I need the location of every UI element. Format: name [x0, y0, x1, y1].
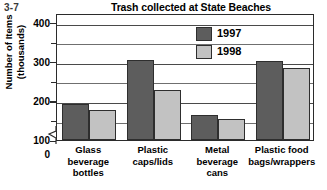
- y-tick-label-400: 400: [16, 18, 50, 29]
- legend-label-1998: 1998: [217, 46, 241, 57]
- bar-1998-3: [218, 119, 245, 141]
- y-tick-label-200: 200: [16, 96, 50, 107]
- category-label-4-line-1: Plastic food: [244, 144, 321, 156]
- category-label-1-line-3: bottles: [50, 167, 127, 179]
- y-axis-title-line-1: Number of Items: [3, 15, 14, 90]
- bar-1997-2: [127, 60, 154, 140]
- gridline: [57, 25, 313, 26]
- legend-item-1997: 1997: [196, 25, 241, 42]
- legend-swatch-1997: [196, 27, 212, 41]
- bar-1997-4: [256, 61, 283, 140]
- chart-legend: 19971998: [196, 25, 241, 61]
- bar-1997-3: [191, 115, 218, 140]
- bar-1997-1: [62, 104, 89, 140]
- x-axis-category-labels: GlassbeveragebottlesPlasticcaps/lidsMeta…: [56, 144, 314, 190]
- y-tick-label-300: 300: [16, 57, 50, 68]
- y-tick-label-0: 0: [16, 149, 50, 160]
- category-label-3-line-3: cans: [179, 167, 256, 179]
- gridline: [57, 44, 313, 45]
- chart-title: Trash collected at State Beaches: [55, 1, 327, 13]
- legend-swatch-1998: [196, 45, 212, 59]
- legend-item-1998: 1998: [196, 43, 241, 60]
- legend-label-1997: 1997: [217, 28, 241, 39]
- bar-1998-4: [283, 68, 310, 140]
- category-label-4-line-2: bags/wrappers: [244, 156, 321, 168]
- bar-1998-2: [154, 90, 181, 140]
- bar-1998-1: [89, 110, 116, 140]
- plot-area: [56, 14, 314, 141]
- category-label-4: Plastic foodbags/wrappers: [244, 144, 321, 167]
- y-tick-label-100: 100: [16, 135, 50, 146]
